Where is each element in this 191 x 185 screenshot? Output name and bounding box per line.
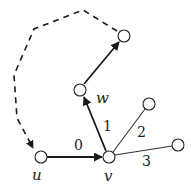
vertex-label-v: v [104,167,113,185]
edge-label-1: 1 [103,118,112,134]
vertex-u [35,151,47,163]
vertex-w [74,84,86,96]
edge-w-top [84,42,119,84]
vertex-n3 [172,139,184,151]
edge-label-3: 3 [142,153,151,169]
vertex-v [103,151,115,163]
vertex-label-u: u [32,166,42,184]
edge-label-2: 2 [137,124,146,140]
graph-diagram: 0 1 2 3 u v w [0,0,191,185]
vertex-top [118,30,130,42]
dashed-path-top-to-u [14,10,117,148]
vertex-n2 [143,98,155,110]
vertex-label-w: w [96,89,109,107]
edge-label-0: 0 [74,137,83,153]
